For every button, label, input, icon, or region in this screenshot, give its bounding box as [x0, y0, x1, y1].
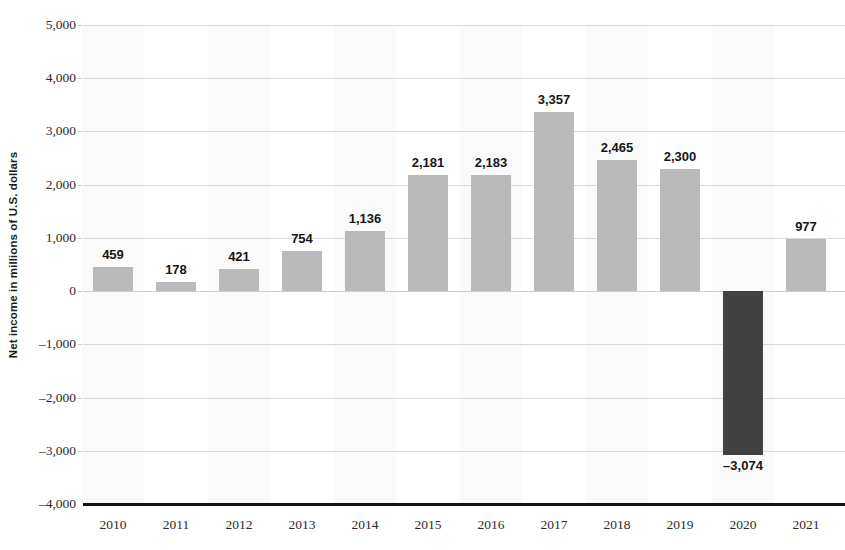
x-tick-label-2017: 2017 [518, 517, 590, 533]
gridline [83, 78, 845, 79]
gridline [83, 131, 845, 132]
y-tick-label: 4,000 [14, 70, 76, 86]
y-axis-tick-labels: 5,0004,0003,0002,0001,0000–1,000–2,000–3… [10, 25, 76, 504]
bar-value-label-2011: 178 [140, 262, 212, 277]
x-tick-label-2012: 2012 [203, 517, 275, 533]
bar-value-label-2018: 2,465 [581, 140, 653, 155]
x-tick-label-2014: 2014 [329, 517, 401, 533]
bar-2019[interactable] [660, 169, 700, 291]
column-band [82, 25, 144, 504]
bar-2017[interactable] [534, 112, 574, 291]
x-axis-tick-labels: 2010201120122013201420152016201720182019… [83, 509, 845, 543]
bar-2016[interactable] [471, 175, 511, 291]
y-tick-label: –1,000 [14, 336, 76, 352]
y-tick-label: 5,000 [14, 17, 76, 33]
y-tick-label: –4,000 [14, 496, 76, 512]
bar-value-label-2019: 2,300 [644, 149, 716, 164]
gridline [83, 238, 845, 239]
bar-2013[interactable] [282, 251, 322, 291]
bar-value-label-2016: 2,183 [455, 155, 527, 170]
bar-chart: Net income in millions of U.S. dollars 5… [0, 0, 845, 550]
bar-value-label-2015: 2,181 [392, 155, 464, 170]
bar-2010[interactable] [93, 267, 133, 291]
y-tick-label: 3,000 [14, 123, 76, 139]
x-tick-label-2020: 2020 [707, 517, 779, 533]
bar-value-label-2012: 421 [203, 249, 275, 264]
plot-area: 4591784217541,1362,1812,1833,3572,4652,3… [83, 25, 845, 504]
bar-2011[interactable] [156, 282, 196, 291]
bar-value-label-2010: 459 [77, 247, 149, 262]
bar-value-label-2020: –3,074 [707, 458, 779, 473]
bar-2014[interactable] [345, 231, 385, 291]
x-tick-label-2019: 2019 [644, 517, 716, 533]
x-tick-label-2018: 2018 [581, 517, 653, 533]
x-axis-baseline [83, 503, 845, 506]
gridline [83, 25, 845, 26]
x-tick-label-2010: 2010 [77, 517, 149, 533]
x-tick-label-2011: 2011 [140, 517, 212, 533]
x-tick-label-2016: 2016 [455, 517, 527, 533]
bar-2018[interactable] [597, 160, 637, 291]
bar-2015[interactable] [408, 175, 448, 291]
gridline [83, 185, 845, 186]
y-tick-label: –2,000 [14, 390, 76, 406]
y-tick-label: 2,000 [14, 177, 76, 193]
bar-2012[interactable] [219, 269, 259, 291]
bar-2021[interactable] [786, 239, 826, 291]
bar-value-label-2014: 1,136 [329, 211, 401, 226]
bar-2020[interactable] [723, 291, 763, 455]
x-tick-label-2013: 2013 [266, 517, 338, 533]
y-tick-label: 0 [14, 283, 76, 299]
bar-value-label-2013: 754 [266, 231, 338, 246]
bar-value-label-2021: 977 [770, 219, 842, 234]
column-band [208, 25, 270, 504]
bar-value-label-2017: 3,357 [518, 92, 590, 107]
x-tick-label-2021: 2021 [770, 517, 842, 533]
y-tick-label: –3,000 [14, 443, 76, 459]
y-tick-label: 1,000 [14, 230, 76, 246]
x-tick-label-2015: 2015 [392, 517, 464, 533]
